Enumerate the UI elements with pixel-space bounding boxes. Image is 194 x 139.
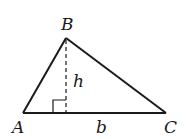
- altitude-label-h: h: [73, 71, 84, 91]
- side-ab: [23, 38, 66, 113]
- vertex-label-a: A: [10, 117, 24, 137]
- right-angle-marker: [53, 100, 66, 113]
- base-label-b: b: [96, 117, 107, 137]
- vertex-label-b: B: [60, 14, 74, 34]
- triangle-diagram: B A C b h: [0, 0, 194, 139]
- vertex-label-c: C: [164, 117, 177, 137]
